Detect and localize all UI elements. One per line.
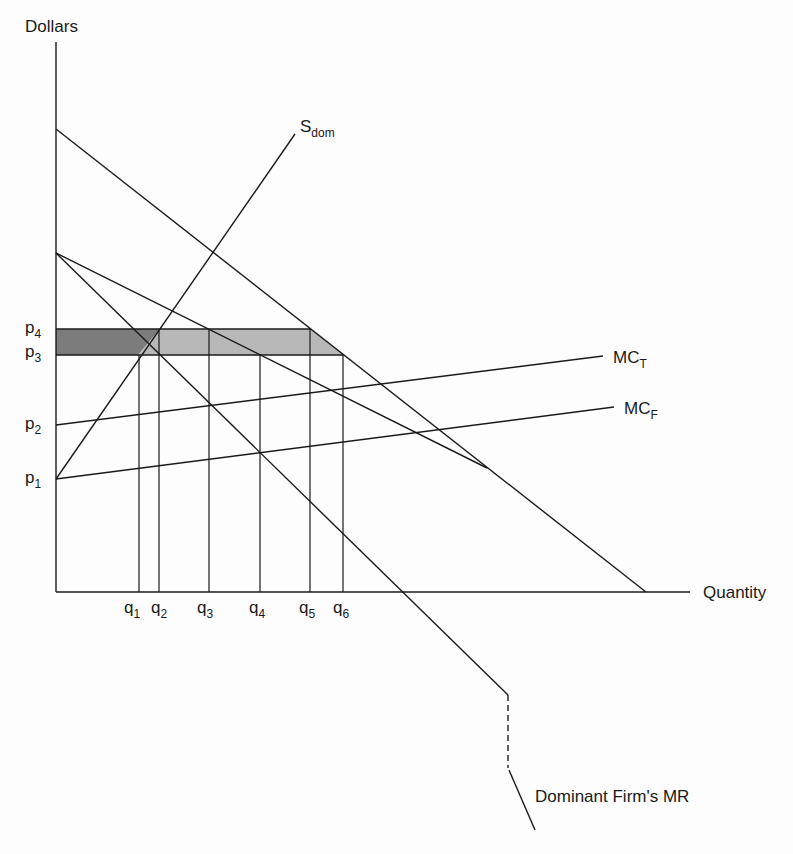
mc-t-label: MCT [613, 348, 647, 371]
q4-label: q4 [249, 598, 265, 621]
residual-demand-curve [56, 253, 487, 468]
s-dom-label: Sdom [300, 117, 335, 140]
mc-f-label: MCF [624, 399, 658, 422]
market-demand-curve [56, 129, 646, 592]
p1-label: p1 [25, 468, 41, 491]
q1-label: q1 [124, 598, 140, 621]
p4-label: p4 [25, 318, 41, 341]
mc-t-curve [56, 356, 603, 425]
y-axis-label: Dollars [25, 17, 78, 36]
x-axis-label: Quantity [703, 583, 767, 602]
dominant-firm-mr-curve [56, 253, 508, 695]
q6-label: q6 [333, 598, 349, 621]
p3-label: p3 [25, 342, 41, 365]
light-shaded-region [138, 329, 344, 355]
q3-label: q3 [197, 598, 213, 621]
q5-label: q5 [299, 598, 315, 621]
mc-f-curve [56, 407, 614, 479]
dominant-firm-mr-label: Dominant Firm's MR [535, 787, 689, 806]
dominant-firm-diagram: Dollars Quantity Sdom MCT MCF Dominant F… [0, 0, 793, 854]
s-dom-curve [56, 134, 295, 479]
mr-tail-segment [509, 770, 535, 830]
p2-label: p2 [25, 414, 41, 437]
q2-label: q2 [151, 598, 167, 621]
